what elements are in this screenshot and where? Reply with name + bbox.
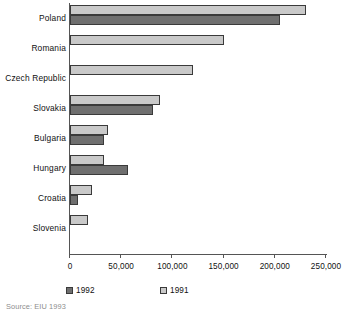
x-tick [325,254,326,258]
x-axis [0,254,353,259]
category-label: Croatia [38,183,66,213]
bar-row: Czech Republic [0,63,353,93]
bar-1992 [70,195,78,205]
bar-1992 [70,135,104,145]
x-tick-label: 250,000 [311,262,341,271]
bar-group [70,185,92,205]
bar-group [70,215,88,225]
source-note: Source: EIU 1993 [6,302,66,311]
bar-1992 [70,105,153,115]
legend-label-1992: 1992 [76,286,95,295]
bar-1992 [70,165,128,175]
bar-row: Romania [0,33,353,63]
bar-group [70,5,306,25]
bar-row: Hungary [0,153,353,183]
x-tick-label: 150,000 [208,262,238,271]
x-tick-labels: 050,000100,000150,000200,000250,000 [0,262,353,276]
bar-group [70,35,224,45]
legend-item-1991: 1991 [160,286,189,295]
bar-1991 [70,5,306,15]
bar-row: Croatia [0,183,353,213]
bar-row: Poland [0,3,353,33]
x-tick-label: 50,000 [108,262,134,271]
bar-row: Slovakia [0,93,353,123]
bar-1991 [70,155,104,165]
category-label: Bulgaria [34,123,66,153]
bar-rows: PolandRomaniaCzech RepublicSlovakiaBulga… [0,3,353,243]
category-label: Romania [31,33,66,63]
bar-1991 [70,65,193,75]
x-tick-label: 0 [68,262,73,271]
category-label: Czech Republic [5,63,66,93]
legend-swatch-1992 [66,287,73,294]
x-tick [171,254,172,258]
bar-1991 [70,215,88,225]
bar-group [70,95,160,115]
x-tick [69,254,70,258]
legend-swatch-1991 [160,287,167,294]
category-label: Hungary [33,153,66,183]
x-tick-label: 100,000 [157,262,187,271]
category-label: Poland [39,3,66,33]
x-tick-label: 200,000 [260,262,290,271]
bar-chart: PolandRomaniaCzech RepublicSlovakiaBulga… [0,0,353,314]
bar-row: Bulgaria [0,123,353,153]
x-tick [274,254,275,258]
bar-group [70,155,128,175]
bar-group [70,125,108,145]
bar-1991 [70,185,92,195]
bar-row: Slovenia [0,213,353,243]
x-tick [223,254,224,258]
bar-1991 [70,125,108,135]
category-label: Slovakia [33,93,66,123]
category-label: Slovenia [33,213,66,243]
legend-label-1991: 1991 [170,286,189,295]
bar-1992 [70,15,280,25]
bar-1991 [70,35,224,45]
plot-area: PolandRomaniaCzech RepublicSlovakiaBulga… [0,0,353,258]
legend-item-1992: 1992 [66,286,95,295]
chart-legend: 1992 1991 [0,286,353,300]
bar-1991 [70,95,160,105]
x-tick [120,254,121,258]
x-axis-line [69,254,327,255]
bar-group [70,65,193,75]
